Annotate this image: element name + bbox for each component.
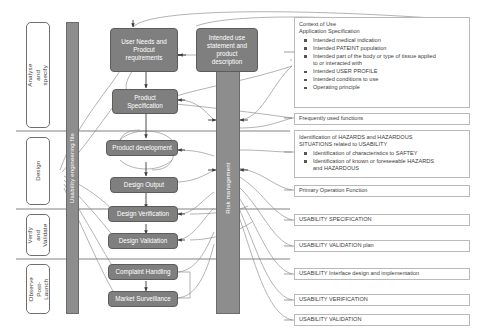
- process-label: Product development: [112, 144, 172, 152]
- phase-label: Verify and Validate: [27, 223, 50, 246]
- process-label: Complaint Handling: [116, 268, 171, 276]
- phase-observe-post-launch: Observe Post-Launch: [26, 264, 50, 314]
- phase-design: Design: [26, 137, 50, 205]
- process-label: Design Validation: [119, 237, 168, 245]
- list-item: Intended medical indication: [299, 37, 465, 44]
- info-box-items: Intended medical indication Intended PAT…: [299, 37, 465, 92]
- info-box-usability-verification[interactable]: USABILITY VERIFICATION: [294, 294, 470, 306]
- list-item: Operating principle: [299, 84, 465, 91]
- info-box-title: USABILITY VALIDATION: [299, 316, 361, 323]
- info-box-usability-specification[interactable]: USABILITY SPECIFICATION: [294, 214, 470, 226]
- list-item: Intended conditions to use: [299, 76, 465, 83]
- process-box-design-verification[interactable]: Design Verification: [108, 206, 178, 222]
- process-box-complaint-handling[interactable]: Complaint Handling: [108, 264, 178, 280]
- info-box-title: Frequently used functions: [299, 115, 363, 122]
- info-box-title: USABILITY Interface design and implement…: [299, 270, 419, 277]
- process-label: Intended use statement and product descr…: [207, 34, 247, 66]
- process-box-market-surveillance[interactable]: Market Surveillance: [108, 291, 178, 307]
- process-box-product-development[interactable]: Product development: [106, 140, 178, 156]
- process-box-design-output[interactable]: Design Output: [110, 177, 178, 193]
- list-item: Identification of characteristics to SAF…: [299, 150, 465, 157]
- process-label: Design Verification: [117, 210, 169, 218]
- usability-engineering-file-bar: Usability engineering file: [66, 22, 79, 314]
- info-box-title: USABILITY VERIFICATION: [299, 296, 368, 303]
- info-box-usability-validation-plan[interactable]: USABILITY VALIDATION plan: [294, 240, 470, 252]
- info-box-usability-validation[interactable]: USABILITY VALIDATION: [294, 314, 470, 326]
- phase-analyse-and-specify: Analyse and specify: [26, 22, 50, 128]
- process-box-design-validation[interactable]: Design Validation: [108, 233, 178, 249]
- process-label: User Needs and Prodcut requirements: [121, 38, 167, 62]
- process-label: Product Specification: [127, 94, 163, 110]
- info-box-title: Context of Use Application Specification: [299, 21, 465, 36]
- risk-management-bar: Risk management: [216, 62, 240, 314]
- phase-label: Analyse and specify: [27, 63, 50, 86]
- info-box-hazards-identification[interactable]: Identification of HAZARDS and HAZARDOUS …: [294, 130, 470, 178]
- info-box-items: Identification of characteristics to SAF…: [299, 150, 465, 173]
- process-label: Market Surveillance: [115, 295, 170, 303]
- info-box-title: USABILITY VALIDATION plan: [299, 242, 374, 249]
- usability-engineering-file-label: Usability engineering file: [70, 133, 76, 203]
- info-box-frequently-used-functions[interactable]: Frequently used functions: [294, 113, 470, 125]
- process-label: Design Output: [124, 181, 164, 189]
- info-box-primary-operation-function[interactable]: Primary Operation Function: [294, 185, 470, 197]
- risk-management-label: Risk management: [225, 162, 231, 213]
- process-box-product-specification[interactable]: Product Specification: [112, 89, 178, 114]
- info-box-title: Primary Operation Function: [299, 187, 367, 194]
- phase-label: Design: [34, 161, 42, 181]
- phase-label: Observe Post-Launch: [27, 277, 50, 301]
- list-item: Intended USER PROFILE: [299, 68, 465, 75]
- process-box-user-needs[interactable]: User Needs and Prodcut requirements: [110, 28, 178, 72]
- list-item: Identification of known or foreseeable H…: [299, 158, 465, 173]
- diagram-canvas: Analyse and specify Design Verify and Va…: [0, 0, 483, 336]
- info-box-title: USABILITY SPECIFICATION: [299, 216, 372, 223]
- phase-verify-and-validate: Verify and Validate: [26, 214, 50, 256]
- info-box-title: Identification of HAZARDS and HAZARDOUS …: [299, 134, 465, 149]
- process-box-intended-use[interactable]: Intended use statement and product descr…: [196, 28, 258, 72]
- info-box-context-of-use[interactable]: Context of Use Application Specification…: [294, 17, 470, 108]
- list-item: Intended part of the body or type of tis…: [299, 53, 465, 68]
- list-item: Intended PATEINT population: [299, 45, 465, 52]
- info-box-usability-interface-design[interactable]: USABILITY Interface design and implement…: [294, 268, 470, 280]
